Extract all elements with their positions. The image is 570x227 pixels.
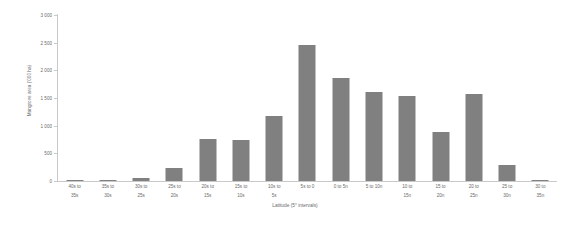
x-axis-tick-label-line1: 35s to (102, 184, 115, 189)
x-axis-tick-label-line2: 15n (391, 192, 424, 201)
x-axis-tick-label: 5 to 10n (357, 183, 390, 192)
x-axis-tick-label-line1: 5s to 0 (301, 184, 315, 189)
x-axis-tick-label-line1: 0 to 5n (334, 184, 348, 189)
y-axis-tick-mark (54, 181, 57, 182)
x-axis-tick-label-line1: 15 to (435, 184, 445, 189)
y-axis-tick-label: 3 000 (41, 13, 53, 18)
x-axis-tick-label-line2: 35n (524, 192, 557, 201)
y-axis-tick-mark (54, 98, 57, 99)
bar[interactable] (432, 132, 449, 181)
x-axis-tick-label: 35s to30s (91, 183, 124, 200)
x-axis-tick-label-line2: 35s (58, 192, 91, 201)
x-axis-title-text: Latitude (5° intervals) (272, 203, 317, 208)
bar-slot (424, 15, 457, 181)
y-axis-tick-label: 2 500 (41, 40, 53, 45)
x-axis-tick-label-line1: 10 to (402, 184, 412, 189)
x-axis-tick-label-line2: 10s (224, 192, 257, 201)
bar[interactable] (499, 165, 516, 181)
x-axis-tick-label-line2: 30s (91, 192, 124, 201)
x-axis-tick-label: 5s to 0 (291, 183, 324, 192)
bar[interactable] (532, 180, 549, 181)
bar[interactable] (332, 78, 349, 181)
x-axis-tick-label-line2: 30n (490, 192, 523, 201)
bar[interactable] (66, 180, 83, 181)
x-axis-tick-label-line2: 25n (457, 192, 490, 201)
y-axis-tick-label: 2 000 (41, 68, 53, 73)
y-axis-tick-mark (54, 70, 57, 71)
bar-slot (490, 15, 523, 181)
y-axis-tick-label: 0 (49, 179, 52, 184)
x-axis-tick-label-line1: 5 to 10n (366, 184, 383, 189)
x-axis-tick-label: 10s to5s (258, 183, 291, 200)
y-axis-tick-label: 1 500 (41, 96, 53, 101)
x-axis-tick-label-line1: 20 to (469, 184, 479, 189)
x-axis-line (57, 181, 557, 182)
x-axis-tick-label: 10 to15n (391, 183, 424, 200)
plot-area (58, 15, 557, 181)
y-axis-tick-mark (54, 43, 57, 44)
bar-slot (224, 15, 257, 181)
x-axis-tick-label: 20s to15s (191, 183, 224, 200)
bar-slot (191, 15, 224, 181)
bar[interactable] (266, 116, 283, 181)
bar[interactable] (232, 140, 249, 182)
bar-slot (258, 15, 291, 181)
bar-slot (324, 15, 357, 181)
x-axis-tick-label-line1: 20s to (201, 184, 214, 189)
bar[interactable] (133, 178, 150, 181)
x-axis-tick-label: 15 to20n (424, 183, 457, 200)
x-axis-tick-label-line2: 20s (158, 192, 191, 201)
bar[interactable] (99, 180, 116, 181)
bar[interactable] (366, 92, 383, 181)
bar-slot (125, 15, 158, 181)
bar-slot (457, 15, 490, 181)
x-axis-tick-label-line1: 40s to (68, 184, 81, 189)
x-axis-tick-label-line1: 10s to (268, 184, 281, 189)
y-axis-tick-mark (54, 15, 57, 16)
x-axis-tick-label-line1: 15s to (235, 184, 248, 189)
bar[interactable] (465, 94, 482, 181)
x-axis-tick-label: 30 to35n (524, 183, 557, 200)
x-axis-tick-label: 40s to35s (58, 183, 91, 200)
y-axis-tick-mark (54, 153, 57, 154)
x-axis-tick-label-line1: 25 to (502, 184, 512, 189)
x-axis-tick-label-line2: 15s (191, 192, 224, 201)
bar[interactable] (166, 168, 183, 181)
bar[interactable] (299, 45, 316, 181)
bar-slot (357, 15, 390, 181)
x-axis-tick-label-line1: 25s to (168, 184, 181, 189)
bar-chart: Mangrove area ('000 ha) 05001 0001 5002 … (0, 0, 570, 227)
x-axis-tick-label-line1: 30 to (535, 184, 545, 189)
y-axis-tick-label: 500 (44, 151, 52, 156)
bar-slot (58, 15, 91, 181)
y-axis-tick-mark (54, 126, 57, 127)
x-axis-tick-label-line2: 5s (258, 192, 291, 201)
x-axis-tick-label: 15s to10s (224, 183, 257, 200)
y-axis-tick-label: 1 000 (41, 123, 53, 128)
bar-slot (524, 15, 557, 181)
x-axis-title: Latitude (5° intervals) (0, 203, 570, 208)
x-axis-tick-label: 0 to 5n (324, 183, 357, 192)
x-axis-tick-label-line2: 20n (424, 192, 457, 201)
x-axis-tick-label: 30s to25s (125, 183, 158, 200)
x-axis-tick-label: 25s to20s (158, 183, 191, 200)
bar[interactable] (199, 139, 216, 181)
bar-slot (91, 15, 124, 181)
bar[interactable] (399, 96, 416, 181)
x-axis-tick-label: 20 to25n (457, 183, 490, 200)
bar-slot (391, 15, 424, 181)
x-axis-tick-label-line2: 25s (125, 192, 158, 201)
x-axis-tick-label: 25 to30n (490, 183, 523, 200)
y-axis-tick-labels: 05001 0001 5002 0002 5003 000 (30, 0, 54, 190)
x-axis-tick-label-line1: 30s to (135, 184, 148, 189)
bar-slot (291, 15, 324, 181)
bar-slot (158, 15, 191, 181)
